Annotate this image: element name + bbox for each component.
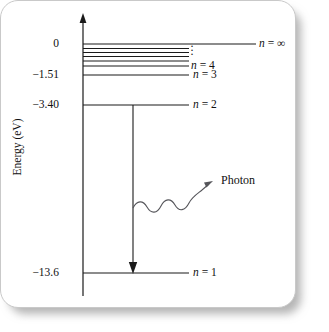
energy-axis-arrowhead: [80, 13, 87, 23]
level-label-n-2: n = 2: [193, 99, 217, 111]
energy-axis-title: Energy (eV): [11, 111, 23, 183]
level-label-n-3: n = 3: [193, 69, 217, 81]
photon-wave-path: [133, 184, 209, 212]
level-label-n-infinity-value: ∞: [277, 37, 285, 49]
photon-wave-arrow: [133, 181, 213, 212]
tick-label-minus-3-40: −3.40: [13, 99, 59, 111]
series-limit-ellipsis: . . .: [187, 42, 197, 54]
level-label-n-1-eq: =: [199, 266, 211, 278]
energy-axis: [80, 13, 87, 296]
transition-arrow-head: [129, 262, 137, 274]
figure-card: Energy (eV) 0 −1.51 −3.40 −13.6 . . . n …: [0, 0, 296, 308]
tick-label-0: 0: [19, 38, 59, 50]
level-label-n-infinity: n = ∞: [259, 38, 285, 50]
level-label-n-1-value: 1: [211, 266, 217, 278]
transition-arrow: [129, 105, 137, 274]
level-label-n-2-eq: =: [199, 98, 211, 110]
level-label-n-2-value: 2: [211, 98, 217, 110]
level-label-n-1: n = 1: [193, 267, 217, 279]
level-label-n-3-eq: =: [199, 68, 211, 80]
energy-level-lines: [83, 44, 256, 273]
tick-label-minus-13-6: −13.6: [13, 267, 59, 279]
level-label-n-3-value: 3: [211, 68, 217, 80]
level-label-n-infinity-eq: =: [265, 37, 277, 49]
tick-label-minus-1-51: −1.51: [13, 69, 59, 81]
figure-root: Energy (eV) 0 −1.51 −3.40 −13.6 . . . n …: [0, 0, 329, 332]
photon-label: Photon: [221, 174, 255, 186]
